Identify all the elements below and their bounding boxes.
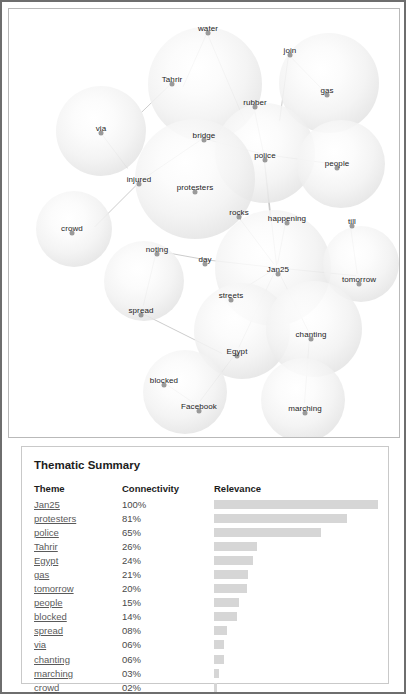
theme-link[interactable]: protesters xyxy=(34,513,76,524)
connectivity-value: 65% xyxy=(122,525,214,539)
theme-link[interactable]: gas xyxy=(34,569,49,580)
graph-node-label[interactable]: marching xyxy=(288,404,322,413)
theme-link[interactable]: spread xyxy=(34,625,63,636)
graph-node-label[interactable]: happening xyxy=(268,214,306,223)
table-row[interactable]: police65% xyxy=(22,525,388,539)
theme-link[interactable]: Egypt xyxy=(34,555,58,566)
graph-node-label[interactable]: crowd xyxy=(61,224,83,233)
graph-node-label[interactable]: via xyxy=(96,124,107,133)
relevance-cell xyxy=(214,582,388,596)
graph-node-label[interactable]: Egypt xyxy=(227,347,248,356)
relevance-bar-track xyxy=(214,612,378,621)
graph-node-label[interactable]: day xyxy=(198,255,211,264)
table-row[interactable]: marching03% xyxy=(22,666,388,680)
table-row[interactable]: blocked14% xyxy=(22,610,388,624)
relevance-cell xyxy=(214,596,388,610)
graph-node-label[interactable]: Tahrir xyxy=(162,75,183,84)
relevance-bar xyxy=(214,655,224,664)
graph-node-label[interactable]: bridge xyxy=(193,131,216,140)
theme-link[interactable]: marching xyxy=(34,668,73,679)
table-row[interactable]: tomorrow20% xyxy=(22,582,388,596)
theme-cell: spread xyxy=(22,624,122,638)
relevance-cell xyxy=(214,610,388,624)
relevance-cell xyxy=(214,525,388,539)
table-row[interactable]: Egypt24% xyxy=(22,553,388,567)
theme-link[interactable]: police xyxy=(34,527,59,538)
relevance-bar xyxy=(214,640,224,649)
table-row[interactable]: Tahrir26% xyxy=(22,539,388,553)
theme-link[interactable]: chanting xyxy=(34,654,70,665)
relevance-bar-track xyxy=(214,655,378,664)
theme-bubble[interactable] xyxy=(143,350,227,434)
theme-bubble-visualization[interactable]: waterTahrirjoingasviarubberpolicepeopleb… xyxy=(8,8,400,438)
theme-link[interactable]: people xyxy=(34,597,63,608)
relevance-bar-track xyxy=(214,514,378,523)
theme-cell: protesters xyxy=(22,511,122,525)
connectivity-value: 20% xyxy=(122,582,214,596)
relevance-bar-track xyxy=(214,584,378,593)
relevance-cell xyxy=(214,497,388,511)
relevance-cell xyxy=(214,511,388,525)
graph-node-label[interactable]: Facebook xyxy=(181,402,217,411)
graph-node-label[interactable]: police xyxy=(254,151,276,160)
connectivity-value: 81% xyxy=(122,511,214,525)
relevance-bar-track xyxy=(214,528,378,537)
connectivity-value: 02% xyxy=(122,680,214,694)
relevance-bar-track xyxy=(214,556,378,565)
graph-node-label[interactable]: water xyxy=(198,24,218,33)
relevance-bar xyxy=(214,669,219,678)
connectivity-value: 06% xyxy=(122,638,214,652)
theme-cell: via xyxy=(22,638,122,652)
theme-cell: Tahrir xyxy=(22,539,122,553)
theme-bubble[interactable] xyxy=(261,358,345,438)
relevance-bar-track xyxy=(214,542,378,551)
table-row[interactable]: gas21% xyxy=(22,567,388,581)
graph-node-label[interactable]: gas xyxy=(320,86,333,95)
graph-node-label[interactable]: blocked xyxy=(150,376,178,385)
graph-node-label[interactable]: people xyxy=(325,159,350,168)
theme-cell: police xyxy=(22,525,122,539)
theme-link[interactable]: tomorrow xyxy=(34,583,74,594)
relevance-bar xyxy=(214,514,347,523)
table-row[interactable]: protesters81% xyxy=(22,511,388,525)
graph-node-label[interactable]: till xyxy=(348,217,356,226)
graph-node-label[interactable]: noting xyxy=(146,245,168,254)
graph-node-label[interactable]: injured xyxy=(127,175,152,184)
graph-node-label[interactable]: tomorrow xyxy=(342,275,376,284)
theme-link[interactable]: crowd xyxy=(34,682,59,693)
graph-node-label[interactable]: protesters xyxy=(177,183,214,192)
relevance-bar-track xyxy=(214,598,378,607)
table-row[interactable]: chanting06% xyxy=(22,652,388,666)
connectivity-value: 08% xyxy=(122,624,214,638)
graph-node-label[interactable]: chanting xyxy=(295,330,326,339)
graph-node-label[interactable]: join xyxy=(284,46,297,55)
connectivity-value: 14% xyxy=(122,610,214,624)
graph-node-label[interactable]: rubber xyxy=(243,98,267,107)
graph-node-label[interactable]: Jan25 xyxy=(267,265,289,274)
graph-node-label[interactable]: spread xyxy=(128,306,153,315)
theme-link[interactable]: Tahrir xyxy=(34,541,58,552)
theme-link[interactable]: blocked xyxy=(34,611,67,622)
relevance-cell xyxy=(214,680,388,694)
summary-table: Theme Connectivity Relevance Jan25100%pr… xyxy=(22,483,388,694)
relevance-bar xyxy=(214,626,227,635)
theme-cell: people xyxy=(22,596,122,610)
relevance-cell xyxy=(214,624,388,638)
table-row[interactable]: crowd02% xyxy=(22,680,388,694)
connectivity-value: 24% xyxy=(122,553,214,567)
theme-link[interactable]: via xyxy=(34,639,46,650)
graph-node-label[interactable]: streets xyxy=(219,291,244,300)
connectivity-value: 26% xyxy=(122,539,214,553)
relevance-cell xyxy=(214,652,388,666)
theme-cell: Egypt xyxy=(22,553,122,567)
table-row[interactable]: via06% xyxy=(22,638,388,652)
graph-node-label[interactable]: rocks xyxy=(229,208,249,217)
relevance-cell xyxy=(214,567,388,581)
relevance-bar xyxy=(214,556,253,565)
column-header-connectivity: Connectivity xyxy=(122,483,214,497)
table-row[interactable]: Jan25100% xyxy=(22,497,388,511)
theme-link[interactable]: Jan25 xyxy=(34,499,60,510)
table-row[interactable]: spread08% xyxy=(22,624,388,638)
relevance-bar xyxy=(214,570,248,579)
table-row[interactable]: people15% xyxy=(22,596,388,610)
